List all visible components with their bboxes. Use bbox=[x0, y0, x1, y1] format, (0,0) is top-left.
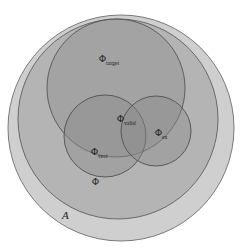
phi-valid-symbol: Φ bbox=[117, 114, 124, 124]
venn-diagram-figure: Φtarget Φvalid Φex Φvect Φ A bbox=[0, 0, 242, 251]
phi-target-subscript: target bbox=[106, 60, 119, 66]
phi-target-symbol: Φ bbox=[99, 54, 106, 64]
phi-vect-symbol: Φ bbox=[91, 147, 98, 157]
phi-ex-symbol: Φ bbox=[155, 128, 162, 138]
phi-vect-subscript: vect bbox=[98, 153, 108, 159]
phi-ex-subscript: ex bbox=[162, 134, 168, 140]
universe-symbol: A bbox=[61, 209, 69, 221]
universe-label: A bbox=[61, 209, 69, 221]
phi-valid-subscript: valid bbox=[124, 120, 136, 126]
venn-diagram-canvas: Φtarget Φvalid Φex Φvect Φ A bbox=[0, 0, 242, 251]
phi-label: Φ bbox=[92, 177, 99, 187]
phi-symbol: Φ bbox=[92, 177, 99, 187]
